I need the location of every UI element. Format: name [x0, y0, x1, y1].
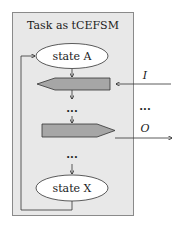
- ellipsis-external: ...: [139, 100, 151, 113]
- state-a-label: state A: [53, 50, 93, 63]
- tcefsm-diagram: Task as tCEFSM state A ... ... state X I…: [0, 0, 181, 232]
- state-x-label: state X: [53, 182, 92, 195]
- output-signal-label: O: [140, 122, 149, 135]
- ellipsis-1: ...: [66, 102, 78, 115]
- input-signal-label: I: [142, 69, 148, 82]
- ellipsis-2: ...: [66, 148, 78, 161]
- container-title: Task as tCEFSM: [27, 19, 119, 32]
